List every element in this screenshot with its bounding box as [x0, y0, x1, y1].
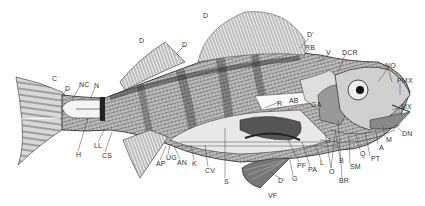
label-pf: PF	[297, 162, 306, 169]
label-ga: GA	[311, 101, 322, 108]
label-d-prime-top: D'	[307, 31, 314, 38]
label-nc: NC	[79, 81, 90, 88]
label-l: L	[320, 159, 324, 166]
label-c: C	[52, 75, 57, 82]
label-h: H	[76, 151, 81, 158]
label-q: Q	[360, 150, 366, 157]
label-cs: CS	[102, 152, 112, 159]
label-o: O	[329, 168, 335, 175]
label-dorsal-first-2: D	[182, 41, 187, 48]
label-an: AN	[177, 159, 187, 166]
label-k: K	[192, 160, 197, 167]
label-cv: CV	[205, 167, 215, 174]
label-dorsal-first-1: D	[139, 37, 144, 44]
label-g: G	[292, 175, 298, 182]
label-d-tail: D	[65, 85, 70, 92]
label-a: A	[379, 144, 384, 151]
figure-caption-cropped	[30, 198, 425, 206]
label-s: S	[224, 178, 229, 185]
label-r: R	[277, 100, 282, 107]
label-br: BR	[339, 177, 349, 184]
label-b: B	[339, 157, 344, 164]
label-mx: MX	[401, 103, 412, 110]
label-sm: SM	[350, 163, 361, 170]
label-m: M	[386, 136, 392, 143]
label-dorsal-top: D	[203, 12, 208, 19]
label-no: NO	[385, 62, 396, 69]
label-ap: AP	[156, 160, 166, 167]
anal-fin	[123, 130, 168, 178]
perch-anatomy-diagram: D D D D' RB V DCR NO PMX MX DN M A PT Q …	[0, 0, 425, 206]
fish-illustration	[0, 0, 425, 206]
label-dcr: DCR	[342, 49, 358, 56]
label-ab: AB	[289, 97, 299, 104]
label-ll: LL	[94, 142, 102, 149]
label-dn: DN	[402, 130, 413, 137]
label-d-prime-bottom: D'	[278, 177, 285, 184]
label-ug: UG	[166, 154, 177, 161]
label-n: N	[94, 82, 99, 89]
label-pa: PA	[308, 166, 317, 173]
label-rb: RB	[305, 44, 315, 51]
label-pt: PT	[371, 155, 380, 162]
label-v: V	[326, 49, 331, 56]
label-pmx: PMX	[397, 77, 413, 84]
